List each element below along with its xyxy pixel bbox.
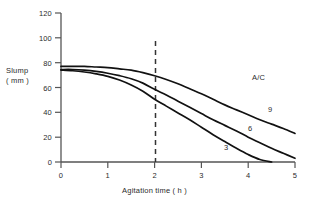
- axes: [61, 13, 295, 162]
- y-tick-label-120: 120: [28, 9, 52, 18]
- x-tick-label-1: 1: [98, 171, 118, 180]
- y-axis-title-line1: Slump: [6, 66, 54, 76]
- curve-label-6: 6: [248, 124, 252, 133]
- chart-figure: 120 100 80 60 40 20 0 0 1 2 3 4 5 Slump …: [0, 0, 309, 205]
- y-axis-title: Slump ( mm ): [6, 66, 54, 86]
- curve-ac-3: [61, 70, 272, 162]
- y-tick-label-40: 40: [28, 108, 52, 117]
- x-tick-label-2: 2: [145, 171, 165, 180]
- x-tick-label-5: 5: [285, 171, 305, 180]
- x-tick-label-0: 0: [51, 171, 71, 180]
- curve-label-3: 3: [224, 143, 228, 152]
- x-axis-title: Agitation time ( h ): [0, 186, 309, 195]
- y-tick-label-20: 20: [28, 133, 52, 142]
- curve-label-9: 9: [268, 105, 272, 114]
- y-axis-title-line2: ( mm ): [6, 76, 54, 86]
- y-tick-label-100: 100: [28, 34, 52, 43]
- legend-title-ac: A/C: [252, 73, 265, 82]
- x-tick-label-4: 4: [238, 171, 258, 180]
- y-tick-label-0: 0: [28, 158, 52, 167]
- x-axis-ticks: [61, 162, 295, 168]
- x-tick-label-3: 3: [191, 171, 211, 180]
- y-axis-ticks: [55, 13, 61, 162]
